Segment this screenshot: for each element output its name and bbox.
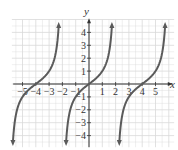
y-tick-label: 3	[81, 40, 86, 51]
tangent-graph: −5−4−3−2−112345−4−3−2−11234 x y	[0, 0, 178, 150]
y-tick-label: −4	[75, 130, 86, 141]
x-tick-label: 1	[100, 86, 105, 97]
curve-arrow-down-icon	[64, 140, 69, 146]
y-tick-label: −3	[75, 117, 86, 128]
x-tick-label: 5	[153, 86, 158, 97]
y-axis-label: y	[83, 5, 89, 17]
x-tick-label: −3	[44, 86, 55, 97]
y-tick-label: 4	[81, 27, 86, 38]
x-axis-label: x	[169, 78, 175, 90]
curve-arrow-down-icon	[117, 140, 122, 146]
y-tick-label: 1	[81, 66, 86, 77]
x-tick-label: −2	[57, 86, 68, 97]
curve-arrow-up-icon	[56, 22, 61, 28]
curve-arrow-up-icon	[163, 22, 168, 28]
curve-arrow-down-icon	[10, 140, 15, 146]
y-tick-label: −1	[75, 91, 86, 102]
x-tick-label: 2	[113, 86, 118, 97]
y-tick-label: 2	[81, 53, 86, 64]
x-tick-label: 4	[140, 86, 145, 97]
y-tick-label: −2	[75, 104, 86, 115]
curve-arrow-up-icon	[109, 22, 114, 28]
y-axis-arrow-icon	[87, 18, 91, 23]
